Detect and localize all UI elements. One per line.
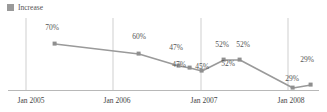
data-label: 52% [221, 59, 235, 68]
legend-item-label: Increase [18, 3, 43, 12]
x-axis-rule [8, 90, 319, 91]
data-point-marker [309, 83, 313, 87]
data-label: 29% [300, 55, 314, 64]
x-axis: Jan 2005 Jan 2006 Jan 2007 Jan 2008 [0, 90, 327, 112]
data-label: 47% [172, 60, 186, 69]
gridlines [26, 18, 288, 90]
data-point-marker [137, 52, 141, 56]
data-point-marker [188, 66, 192, 70]
data-label: 47% [169, 43, 183, 52]
data-label: 52% [236, 40, 250, 49]
data-label: 45% [195, 62, 209, 71]
x-tick-label: Jan 2005 [18, 96, 45, 106]
legend-square-icon [7, 4, 14, 11]
data-label: 52% [215, 40, 229, 49]
x-tick-label: Jan 2008 [278, 96, 305, 106]
data-point-marker [291, 86, 295, 90]
data-point-marker [53, 42, 57, 46]
data-label: 70% [45, 23, 59, 32]
data-point-marker [238, 58, 242, 62]
data-label: 29% [285, 74, 299, 83]
line-chart: Increase 7 [0, 0, 327, 112]
x-tick-label: Jan 2006 [104, 96, 131, 106]
plot-area: 70% 60% 47% 47% 45% 52% 52% 52% 29% 29% [0, 18, 327, 92]
chart-legend: Increase [7, 2, 43, 12]
data-label: 60% [132, 32, 146, 41]
x-tick-label: Jan 2007 [191, 96, 218, 106]
